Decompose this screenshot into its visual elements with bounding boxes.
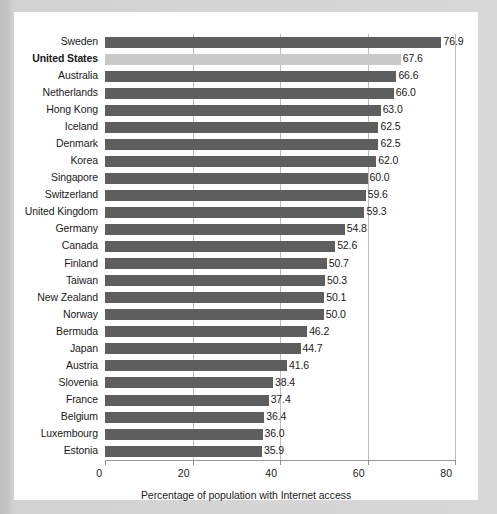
bar-value-label: 36.0 bbox=[265, 427, 285, 440]
bar-value-label: 60.0 bbox=[370, 171, 390, 184]
x-tick-label-20: 20 bbox=[178, 467, 193, 480]
category-label-belgium: Belgium bbox=[61, 410, 98, 423]
bar-denmark[interactable] bbox=[105, 139, 378, 150]
bar-iceland[interactable] bbox=[105, 122, 378, 133]
bar-united-states[interactable] bbox=[105, 54, 401, 65]
bar-norway[interactable] bbox=[105, 309, 324, 320]
category-label-denmark: Denmark bbox=[56, 137, 98, 150]
bar-australia[interactable] bbox=[105, 71, 396, 82]
category-label-switzerland: Switzerland bbox=[45, 188, 98, 201]
bar-value-label: 36.4 bbox=[266, 410, 286, 423]
bar-value-label: 62.0 bbox=[378, 154, 398, 167]
bar-row[interactable]: 36.4 bbox=[105, 409, 455, 426]
bar-row[interactable]: 67.6 bbox=[105, 51, 455, 68]
category-label-slovenia: Slovenia bbox=[59, 376, 98, 389]
bar-austria[interactable] bbox=[105, 360, 287, 371]
bar-value-label: 67.6 bbox=[403, 52, 423, 65]
category-label-estonia: Estonia bbox=[64, 444, 98, 457]
bar-row[interactable]: 35.9 bbox=[105, 443, 455, 460]
category-label-korea: Korea bbox=[70, 154, 98, 167]
chart-panel: SwedenUnited StatesAustraliaNetherlandsH… bbox=[14, 12, 478, 500]
bar-value-label: 62.5 bbox=[380, 137, 400, 150]
x-tick-label-60: 60 bbox=[353, 467, 368, 480]
bar-value-label: 76.9 bbox=[443, 35, 463, 48]
bar-row[interactable]: 62.0 bbox=[105, 153, 455, 170]
bar-value-label: 38.4 bbox=[275, 376, 295, 389]
bar-row[interactable]: 62.5 bbox=[105, 136, 455, 153]
bar-row[interactable]: 59.3 bbox=[105, 204, 455, 221]
category-label-united-states: United States bbox=[32, 52, 98, 65]
gridline-80 bbox=[455, 34, 456, 460]
bar-united-kingdom[interactable] bbox=[105, 207, 364, 218]
category-label-australia: Australia bbox=[58, 69, 98, 82]
bar-slovenia[interactable] bbox=[105, 377, 273, 388]
bar-row[interactable]: 52.6 bbox=[105, 238, 455, 255]
bar-row[interactable]: 50.0 bbox=[105, 307, 455, 324]
bar-finland[interactable] bbox=[105, 258, 327, 269]
bar-value-label: 50.1 bbox=[326, 291, 346, 304]
bar-row[interactable]: 66.0 bbox=[105, 85, 455, 102]
bar-row[interactable]: 41.6 bbox=[105, 358, 455, 375]
bar-netherlands[interactable] bbox=[105, 88, 394, 99]
category-label-netherlands: Netherlands bbox=[42, 86, 98, 99]
bar-row[interactable]: 60.0 bbox=[105, 170, 455, 187]
bar-row[interactable]: 37.4 bbox=[105, 392, 455, 409]
bar-canada[interactable] bbox=[105, 241, 335, 252]
bar-row[interactable]: 63.0 bbox=[105, 102, 455, 119]
bar-germany[interactable] bbox=[105, 224, 345, 235]
bar-row[interactable]: 62.5 bbox=[105, 119, 455, 136]
plot-area: 76.967.666.666.063.062.562.562.060.059.6… bbox=[105, 34, 455, 460]
bar-row[interactable]: 50.3 bbox=[105, 273, 455, 290]
category-label-bermuda: Bermuda bbox=[56, 325, 98, 338]
bar-row[interactable]: 46.2 bbox=[105, 324, 455, 341]
bar-value-label: 54.8 bbox=[347, 222, 367, 235]
bar-value-label: 63.0 bbox=[383, 103, 403, 116]
bar-row[interactable]: 44.7 bbox=[105, 341, 455, 358]
category-axis-labels: SwedenUnited StatesAustraliaNetherlandsH… bbox=[22, 34, 98, 460]
x-tick-label-0: 0 bbox=[96, 467, 105, 480]
category-label-luxembourg: Luxembourg bbox=[41, 427, 98, 440]
bar-row[interactable]: 59.6 bbox=[105, 187, 455, 204]
bar-row[interactable]: 36.0 bbox=[105, 426, 455, 443]
bar-korea[interactable] bbox=[105, 156, 376, 167]
category-label-japan: Japan bbox=[70, 342, 98, 355]
tickmark-20 bbox=[193, 460, 194, 465]
bar-value-label: 66.0 bbox=[396, 86, 416, 99]
bar-value-label: 44.7 bbox=[303, 342, 323, 355]
tickmark-80 bbox=[455, 460, 456, 465]
bar-value-label: 50.0 bbox=[326, 308, 346, 321]
bar-value-label: 37.4 bbox=[271, 393, 291, 406]
category-label-canada: Canada bbox=[62, 239, 98, 252]
tickmark-0 bbox=[105, 460, 106, 465]
category-label-taiwan: Taiwan bbox=[66, 274, 98, 287]
bar-row[interactable]: 76.9 bbox=[105, 34, 455, 51]
bar-sweden[interactable] bbox=[105, 37, 441, 48]
bar-estonia[interactable] bbox=[105, 446, 262, 457]
bar-row[interactable]: 38.4 bbox=[105, 375, 455, 392]
x-tick-label-80: 80 bbox=[440, 467, 455, 480]
bar-france[interactable] bbox=[105, 395, 269, 406]
bar-value-label: 59.3 bbox=[366, 205, 386, 218]
bar-switzerland[interactable] bbox=[105, 190, 366, 201]
bar-luxembourg[interactable] bbox=[105, 429, 263, 440]
bar-row[interactable]: 54.8 bbox=[105, 221, 455, 238]
bar-japan[interactable] bbox=[105, 343, 301, 354]
tickmark-60 bbox=[368, 460, 369, 465]
bar-belgium[interactable] bbox=[105, 412, 264, 423]
bar-value-label: 59.6 bbox=[368, 188, 388, 201]
category-label-sweden: Sweden bbox=[61, 35, 98, 48]
bar-row[interactable]: 50.1 bbox=[105, 290, 455, 307]
bar-value-label: 35.9 bbox=[264, 444, 284, 457]
bar-singapore[interactable] bbox=[105, 173, 368, 184]
bar-value-label: 41.6 bbox=[289, 359, 309, 372]
bar-hong-kong[interactable] bbox=[105, 105, 381, 116]
bar-row[interactable]: 50.7 bbox=[105, 256, 455, 273]
category-label-hong-kong: Hong Kong bbox=[46, 103, 98, 116]
bar-new-zealand[interactable] bbox=[105, 292, 324, 303]
bar-taiwan[interactable] bbox=[105, 275, 325, 286]
x-tick-label-40: 40 bbox=[265, 467, 280, 480]
category-label-finland: Finland bbox=[64, 257, 98, 270]
bar-bermuda[interactable] bbox=[105, 326, 307, 337]
bar-row[interactable]: 66.6 bbox=[105, 68, 455, 85]
bar-value-label: 62.5 bbox=[380, 120, 400, 133]
